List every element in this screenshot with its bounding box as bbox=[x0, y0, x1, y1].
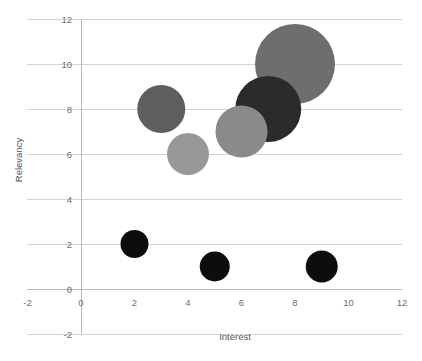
x-axis-title: Interest bbox=[219, 331, 251, 342]
y-tick-label-6: 6 bbox=[67, 149, 72, 160]
gridlines-group bbox=[27, 20, 403, 335]
y-axis-title: Relevancy bbox=[13, 138, 24, 183]
x-tick-label--2: -2 bbox=[23, 297, 31, 308]
y-tick-label-2: 2 bbox=[67, 239, 72, 250]
x-tick-label-4: 4 bbox=[185, 297, 190, 308]
bubble-point bbox=[216, 106, 268, 158]
bubble-chart-canvas: -2024681012 -2024681012 Interest Relevan… bbox=[0, 0, 422, 361]
bubble-point bbox=[167, 133, 209, 175]
bubbles-group bbox=[121, 24, 338, 283]
y-tick-label--2: -2 bbox=[64, 329, 72, 340]
y-tick-label-10: 10 bbox=[61, 59, 72, 70]
x-tick-label-0: 0 bbox=[78, 297, 83, 308]
bubble-point bbox=[200, 252, 230, 282]
y-tick-labels-group: -2024681012 bbox=[61, 14, 72, 340]
x-tick-label-2: 2 bbox=[132, 297, 137, 308]
y-tick-label-8: 8 bbox=[67, 104, 72, 115]
y-tick-label-4: 4 bbox=[67, 194, 72, 205]
bubble-point bbox=[121, 230, 149, 258]
x-tick-labels-group: -2024681012 bbox=[23, 297, 407, 308]
x-tick-label-10: 10 bbox=[343, 297, 354, 308]
bubble-chart-figure: -2024681012 -2024681012 Interest Relevan… bbox=[0, 0, 422, 361]
x-tick-label-8: 8 bbox=[292, 297, 297, 308]
x-tick-label-12: 12 bbox=[397, 297, 408, 308]
y-tick-label-12: 12 bbox=[61, 14, 72, 25]
x-tick-label-6: 6 bbox=[239, 297, 244, 308]
bubble-point bbox=[137, 85, 185, 133]
bubble-point bbox=[306, 251, 338, 283]
y-tick-label-0: 0 bbox=[67, 284, 72, 295]
